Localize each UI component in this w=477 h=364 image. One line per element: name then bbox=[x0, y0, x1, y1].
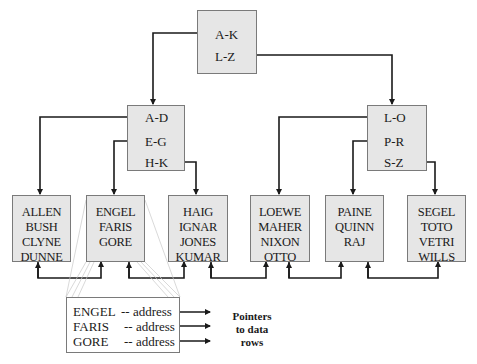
leaf-name: CLYNE bbox=[22, 235, 61, 250]
leaf-name: OTTO bbox=[264, 250, 296, 265]
internal-node-left: A-D E-G H-K bbox=[127, 105, 185, 171]
leaf-node: LOEWE MAHER NIXON OTTO bbox=[250, 195, 310, 262]
leaf-name: ALLEN bbox=[22, 205, 61, 220]
leaf-node: SEGEL TOTO VETRI WILLS bbox=[407, 195, 466, 262]
leaf-name: LOEWE bbox=[259, 205, 301, 220]
leaf-name: ENGEL bbox=[96, 205, 135, 220]
detail-row: GORE -- address bbox=[73, 335, 108, 349]
detail-row: ENGEL -- address bbox=[73, 305, 116, 319]
leaf-name: VETRI bbox=[419, 235, 454, 250]
leaf-name: RAJ bbox=[344, 235, 365, 250]
internal-key: P-R bbox=[384, 135, 404, 148]
detail-key: ENGEL bbox=[73, 304, 116, 319]
leaf-name: TOTO bbox=[421, 220, 453, 235]
leaf-name: JONES bbox=[180, 235, 216, 250]
pointers-to-data-rows-label: Pointers to data rows bbox=[228, 310, 276, 349]
leaf-node: ENGEL FARIS GORE bbox=[86, 195, 145, 262]
leaf-node: PAINE QUINN RAJ bbox=[325, 195, 384, 262]
leaf-name: PAINE bbox=[337, 205, 371, 220]
leaf-name: SEGEL bbox=[418, 205, 455, 220]
internal-key: E-G bbox=[145, 135, 167, 148]
leaf-name: FARIS bbox=[99, 220, 132, 235]
detail-key: GORE bbox=[73, 334, 108, 349]
leaf-name: WILLS bbox=[418, 250, 455, 265]
leaf-name: BUSH bbox=[25, 220, 57, 235]
internal-key: L-O bbox=[384, 111, 406, 124]
detail-row: FARIS -- address bbox=[73, 320, 109, 334]
detail-address: -- address bbox=[121, 305, 172, 319]
leaf-name: DUNNE bbox=[20, 250, 62, 265]
pointer-label-line: rows bbox=[228, 336, 276, 349]
detail-address: -- address bbox=[124, 320, 175, 334]
internal-key: H-K bbox=[145, 156, 168, 169]
root-node: A-K L-Z bbox=[197, 10, 257, 74]
leaf-node: HAIG IGNAR JONES KUMAR bbox=[168, 195, 228, 262]
leaf-name: QUINN bbox=[335, 220, 374, 235]
leaf-name: HAIG bbox=[183, 205, 213, 220]
leaf-name: GORE bbox=[99, 235, 132, 250]
pointer-label-line: to data bbox=[228, 323, 276, 336]
edge-root-lz bbox=[242, 55, 392, 104]
link-leaf4-leaf5 bbox=[289, 262, 341, 278]
leaf-name: NIXON bbox=[261, 235, 300, 250]
internal-node-right: L-O P-R S-Z bbox=[367, 105, 427, 171]
leaf-name: KUMAR bbox=[175, 250, 220, 265]
internal-key: S-Z bbox=[384, 156, 404, 169]
leaf-name: MAHER bbox=[258, 220, 302, 235]
detail-key: FARIS bbox=[73, 319, 109, 334]
pointer-label-line: Pointers bbox=[228, 310, 276, 323]
leaf-detail-box: ENGEL -- address FARIS -- address GORE -… bbox=[66, 297, 180, 353]
root-key-2: L-Z bbox=[215, 50, 235, 63]
root-key-1: A-K bbox=[215, 28, 238, 41]
leaf-node: ALLEN BUSH CLYNE DUNNE bbox=[12, 195, 71, 262]
leaf-name: IGNAR bbox=[179, 220, 217, 235]
detail-address: -- address bbox=[124, 335, 175, 349]
internal-key: A-D bbox=[145, 111, 168, 124]
